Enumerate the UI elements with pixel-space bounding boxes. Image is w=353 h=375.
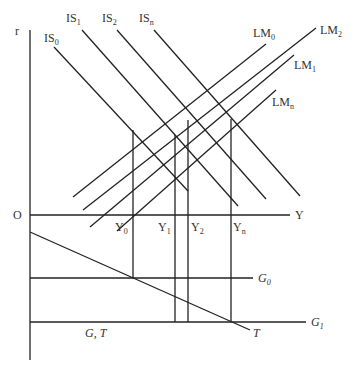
axis-label-r: r — [15, 24, 19, 38]
is0-curve — [54, 47, 188, 191]
yn-label: Yn — [233, 220, 246, 236]
lm1-curve — [90, 55, 294, 227]
is1-curve — [82, 30, 238, 206]
lmn-label: LMn — [272, 95, 294, 111]
is2-curve — [117, 30, 266, 199]
isn-label: ISn — [139, 11, 154, 27]
tax-line — [30, 232, 250, 330]
y1-label: Y1 — [158, 220, 171, 236]
lm0-label: LM0 — [253, 26, 275, 42]
origin-label: O — [13, 208, 22, 222]
g1-label: G1 — [311, 315, 324, 331]
g0-label: G0 — [258, 271, 271, 287]
tax-line-label: T — [253, 326, 261, 340]
is2-label: IS2 — [102, 11, 117, 27]
lm2-label: LM2 — [320, 23, 342, 39]
is1-label: IS1 — [66, 11, 81, 27]
lower-axis-label: G, T — [85, 326, 108, 340]
lm0-curve — [73, 44, 266, 197]
is0-label: IS0 — [44, 31, 59, 47]
is-lm-diagram: r O Y IS0 IS1 IS2 ISn LM0 LM2 LM1 LMn Y0… — [0, 0, 353, 375]
axis-label-y: Y — [295, 208, 304, 222]
lmn-curve — [117, 90, 276, 231]
lm2-curve — [83, 28, 316, 210]
y2-label: Y2 — [191, 220, 204, 236]
lm1-label: LM1 — [294, 58, 316, 74]
isn-curve — [154, 30, 300, 196]
